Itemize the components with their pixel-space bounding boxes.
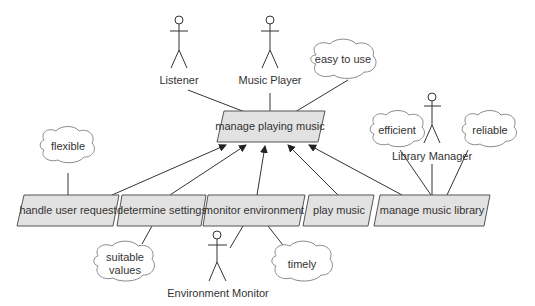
subgoal-handle-user-request[interactable]: handle user request [17,195,119,226]
subgoal-play-music[interactable]: play music [303,195,374,226]
actor-label: Library Manager [392,150,472,162]
quality-timely[interactable]: timely [272,241,333,281]
subgoal-label: play music [313,204,365,216]
quality-label: values [109,264,141,276]
link-easy-to-use [295,80,348,112]
quality-label: flexible [51,140,85,152]
subgoal-monitor-environment[interactable]: monitor environment [203,195,305,226]
quality-easy-to-use[interactable]: easy to use [311,39,376,78]
quality-suitable-values[interactable]: suitable values [94,241,155,281]
quality-label: reliable [472,124,507,136]
quality-efficient[interactable]: efficient [370,111,424,147]
subgoal-manage-music-library[interactable]: manage music library [374,195,490,226]
subgoal-label: handle user request [19,204,116,216]
goal-label: manage playing music [215,120,325,132]
goal-diagram: manage playing music handle user request… [0,0,535,306]
link-suitable-values [142,226,152,244]
stick-figure-icon [261,16,279,68]
actor-listener[interactable]: Listener [159,16,198,86]
arrow-manage-music-library [309,145,402,195]
subgoal-label: determine settings [117,204,207,216]
link-environment-monitor [230,226,243,248]
arrow-monitor-environment [257,146,265,195]
stick-figure-icon [208,231,227,281]
quality-label: easy to use [315,53,371,65]
quality-label: efficient [378,124,416,136]
actor-label: Listener [159,74,198,86]
actor-environment-monitor[interactable]: Environment Monitor [167,231,269,299]
quality-reliable[interactable]: reliable [462,111,516,147]
quality-flexible[interactable]: flexible [40,127,94,163]
arrow-play-music [288,145,338,195]
subgoal-label: manage music library [380,204,485,216]
actor-label: Music Player [239,74,302,86]
quality-label: suitable [106,251,144,263]
actor-music-player[interactable]: Music Player [239,16,302,86]
actor-label: Environment Monitor [167,287,269,299]
goal-manage-playing-music[interactable]: manage playing music [215,111,325,142]
quality-label: timely [288,258,317,270]
stick-figure-icon [170,16,188,68]
subgoal-label: monitor environment [204,204,304,216]
stick-figure-icon [424,93,441,143]
link-listener [188,90,245,112]
subgoal-determine-settings[interactable]: determine settings [117,195,207,226]
